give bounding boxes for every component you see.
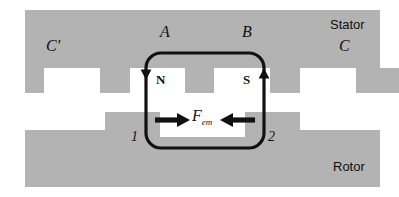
label-conductor-two: 2 [268, 130, 275, 144]
label-pole-south: S [243, 73, 250, 86]
flux-arrow-up-icon [259, 68, 270, 79]
flux-arrow-down-icon [141, 70, 152, 81]
figure-root: C' A B C Stator Rotor N S 1 2 Fem [0, 0, 399, 197]
label-phase-c-prime: C' [46, 38, 60, 54]
label-stator: Stator [330, 18, 365, 31]
force-arrow-left-icon [155, 113, 190, 127]
label-pole-north: N [156, 73, 165, 86]
label-conductor-one: 1 [131, 130, 138, 144]
label-phase-a: A [160, 24, 170, 40]
label-phase-b: B [242, 24, 252, 40]
stator-edge-tooth-right [380, 68, 399, 93]
force-symbol: F [192, 107, 202, 124]
label-phase-c: C [339, 38, 350, 54]
label-force-em: Fem [192, 108, 212, 124]
label-rotor: Rotor [333, 160, 365, 173]
force-subscript: em [202, 117, 213, 127]
